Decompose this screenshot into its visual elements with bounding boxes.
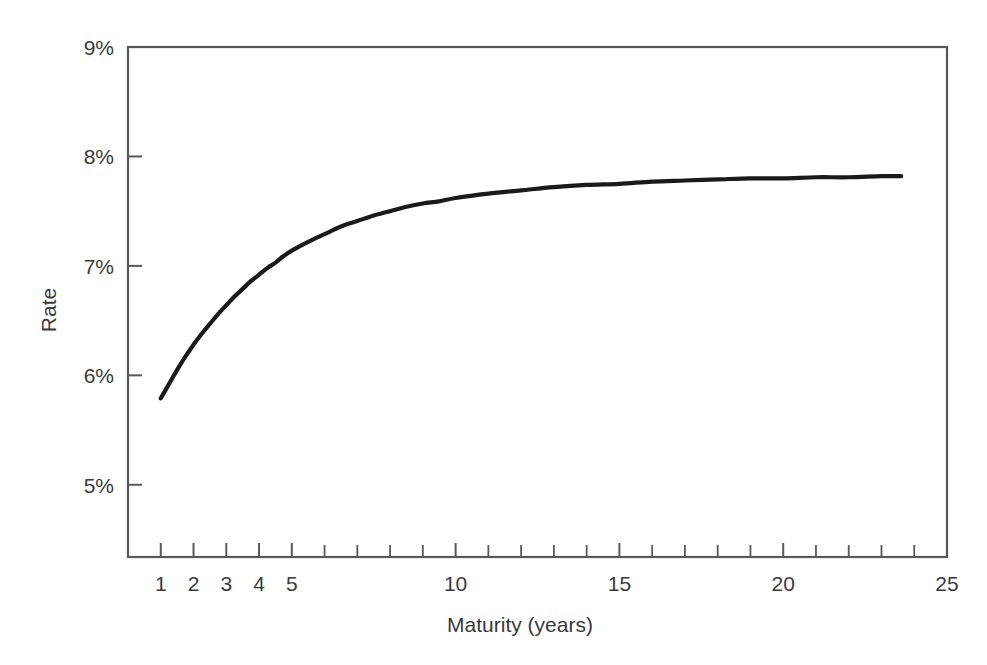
y-axis-title: Rate (37, 288, 60, 332)
x-tick-label: 20 (772, 572, 795, 595)
y-tick-label: 5% (84, 474, 114, 497)
y-tick-label: 7% (84, 255, 114, 278)
y-tick-label: 6% (84, 364, 114, 387)
chart-canvas: 5%6%7%8%9% 1234510152025 Rate Maturity (… (0, 0, 987, 665)
x-axis-tick-labels: 1234510152025 (155, 572, 959, 595)
x-tick-label: 1 (155, 572, 167, 595)
x-tick-label: 10 (444, 572, 467, 595)
x-tick-label: 15 (608, 572, 631, 595)
x-tick-label: 3 (220, 572, 232, 595)
y-axis-ticks (128, 156, 142, 484)
x-tick-label: 25 (935, 572, 958, 595)
y-tick-label: 9% (84, 36, 114, 59)
plot-frame (128, 47, 947, 557)
y-axis-tick-labels: 5%6%7%8%9% (84, 36, 114, 497)
series-line-yield-curve (161, 176, 901, 398)
x-tick-label: 5 (286, 572, 298, 595)
x-tick-label: 2 (188, 572, 200, 595)
x-tick-label: 4 (253, 572, 265, 595)
x-axis-title: Maturity (years) (447, 613, 593, 636)
x-axis-ticks (161, 543, 947, 557)
data-series-group (161, 176, 901, 398)
chart-figure: 5%6%7%8%9% 1234510152025 Rate Maturity (… (0, 0, 987, 665)
y-tick-label: 8% (84, 145, 114, 168)
